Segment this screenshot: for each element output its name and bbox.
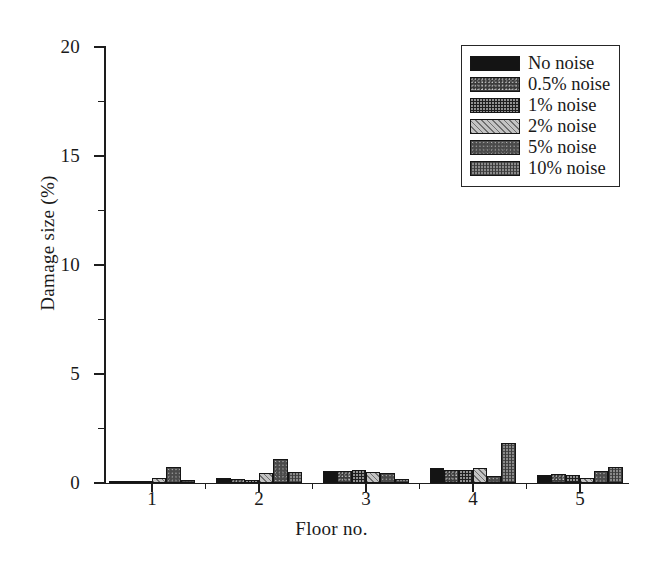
legend-item: 2% noise [470,116,610,137]
bar [430,468,444,483]
bar [109,481,123,483]
legend-item: 10% noise [470,158,610,179]
legend-label: 10% noise [528,159,606,178]
bar [537,475,551,483]
legend-label: 2% noise [528,117,596,136]
bar [473,468,487,483]
bar [138,481,152,483]
bar [444,470,458,483]
bar [594,471,608,483]
bar [337,471,351,483]
bar [259,473,273,483]
legend-item: 5% noise [470,137,610,158]
bar [395,479,409,483]
legend-label: 1% noise [528,96,596,115]
bar [273,459,287,483]
legend-swatch-icon [470,98,520,113]
y-axis-title: Damage size (%) [37,133,59,353]
bar [459,470,473,483]
bar [124,481,138,483]
bar [608,467,622,483]
legend-label: No noise [528,54,594,73]
bar [551,474,565,483]
bar [181,480,195,483]
legend-swatch-icon [470,140,520,155]
legend-swatch-icon [470,77,520,92]
bar [166,467,180,483]
bar [152,478,166,483]
legend-item: 1% noise [470,95,610,116]
chart-figure: 05101520 12345 Damage size (%) Floor no.… [0,0,663,563]
bar [501,443,515,483]
bar [288,472,302,483]
bar [580,478,594,483]
bar [366,472,380,483]
bar [323,471,337,483]
bar [352,470,366,483]
bar [245,480,259,483]
bar [231,479,245,483]
legend-item: No noise [470,53,610,74]
legend-item: 0.5% noise [470,74,610,95]
x-axis-title: Floor no. [0,518,663,540]
legend-swatch-icon [470,119,520,134]
legend-label: 0.5% noise [528,75,610,94]
legend-swatch-icon [470,56,520,71]
chart-legend: No noise0.5% noise1% noise2% noise5% noi… [461,45,620,187]
bar [487,476,501,483]
bar [216,478,230,483]
bar [566,475,580,483]
legend-label: 5% noise [528,138,596,157]
bar [380,473,394,483]
legend-swatch-icon [470,161,520,176]
